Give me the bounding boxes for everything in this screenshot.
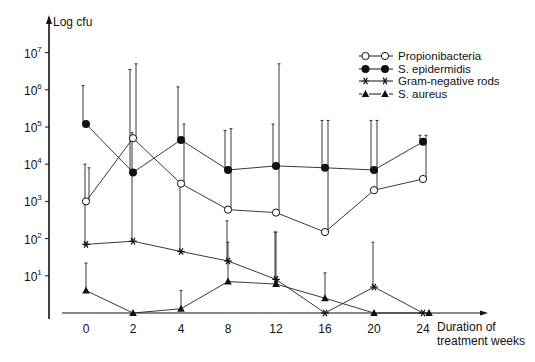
legend-item-propionibacteria: Propionibacteria <box>358 50 500 63</box>
y-tick-label: 107 <box>24 45 42 61</box>
y-tick-label: 101 <box>24 268 42 284</box>
filled-triangle-marker-icon <box>358 88 394 100</box>
legend-label: Propionibacteria <box>398 50 481 63</box>
asterisk-marker-icon <box>358 75 394 87</box>
svg-text:24: 24 <box>416 322 430 336</box>
filled-circle-marker-icon <box>358 63 394 75</box>
legend-label: S. epidermidis <box>398 63 471 76</box>
svg-text:8: 8 <box>225 322 232 336</box>
legend-label: Gram-negative rods <box>398 75 500 88</box>
open-circle-marker-icon <box>358 50 394 62</box>
x-axis-label-line1: Duration of <box>437 320 535 334</box>
x-axis-label-line2: treatment weeks <box>437 334 535 348</box>
svg-text:4: 4 <box>178 322 185 336</box>
y-axis-label: Log cfu <box>53 15 92 29</box>
y-tick-label: 103 <box>24 193 42 209</box>
svg-text:12: 12 <box>269 322 283 336</box>
legend-item-gram-negative-rods: Gram-negative rods <box>358 75 500 88</box>
legend-item-s-epidermidis: S. epidermidis <box>358 63 500 76</box>
svg-text:0: 0 <box>83 322 90 336</box>
legend-item-s-aureus: S. aureus <box>358 88 500 101</box>
svg-text:2: 2 <box>130 322 137 336</box>
svg-text:16: 16 <box>318 322 332 336</box>
legend-label: S. aureus <box>398 88 447 101</box>
y-tick-label: 105 <box>24 119 42 135</box>
y-axis-label-text: Log cfu <box>53 15 92 29</box>
y-tick-label: 102 <box>24 231 42 247</box>
y-tick-label: 106 <box>24 82 42 98</box>
x-axis-label: Duration of treatment weeks <box>437 320 535 348</box>
legend: Propionibacteria S. epidermidis Gram-neg… <box>358 50 500 100</box>
y-tick-label: 104 <box>24 156 42 172</box>
svg-text:20: 20 <box>367 322 381 336</box>
